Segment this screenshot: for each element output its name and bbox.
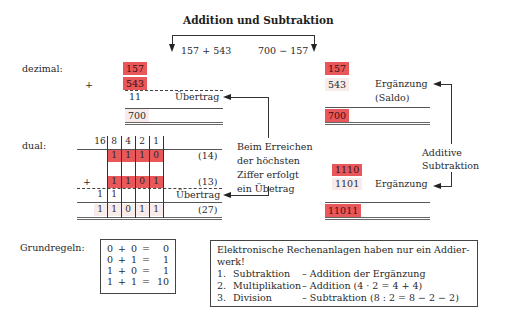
info-item-desc: – Addition der Ergänzung: [302, 268, 425, 280]
info-item-op: Subtraktion: [233, 268, 302, 280]
rule-op: +: [118, 276, 126, 287]
info-item-num: 3.: [217, 292, 233, 304]
info-item-desc: – Subtraktion (8 : 2 = 8 − 2 − 2): [302, 292, 459, 304]
binary-label: dual:: [22, 140, 46, 151]
rule-eq: =: [142, 276, 150, 287]
rule-eq: =: [142, 254, 150, 265]
rule-row: 0+0=0: [107, 243, 169, 254]
row2-digit: 0: [135, 176, 149, 186]
result-digit: 1: [93, 204, 107, 214]
carry-note-line: Ziffer erfolgt: [237, 168, 313, 182]
carry-note-line: der höchsten: [237, 154, 313, 168]
rule-a: 1: [107, 265, 113, 276]
top-bracket-line: [172, 35, 315, 36]
rule-result: 1: [155, 265, 169, 276]
rule-b: 0: [131, 265, 137, 276]
decimal-operand-1: 157: [123, 62, 147, 75]
row1-digit: 1: [135, 150, 149, 160]
bin-sub-operand-1: 1110: [332, 164, 362, 176]
rule-result: 10: [155, 276, 169, 287]
additive-subtraction-note: Additive Subtraktion: [422, 146, 479, 172]
info-item: 3. Division – Subtraktion (8 : 2 = 8 − 2…: [217, 292, 471, 304]
row2-digit: 1: [107, 176, 121, 186]
row2-decimal: (13): [198, 176, 218, 187]
row2-digit: 1: [149, 176, 163, 186]
carry-digit: 1: [107, 189, 121, 199]
note-line: Subtraktion: [422, 159, 479, 172]
place-value-4: 4: [121, 136, 135, 146]
place-value-2: 2: [135, 136, 149, 146]
additive-connector-h: [440, 186, 452, 187]
rule-op: +: [118, 265, 126, 276]
column-divider: [149, 136, 150, 218]
bin-complement-label: Ergänzung: [375, 178, 428, 189]
decimal-carry-label: Übertrag: [175, 91, 219, 102]
bin-sub-double-line: [325, 217, 430, 220]
row1-digit: 1: [107, 150, 121, 160]
place-value-8: 8: [107, 136, 121, 146]
decimal-result: 700: [125, 109, 149, 122]
rule-a: 0: [107, 254, 113, 265]
carry-note: Beim Erreichen der höchsten Ziffer erfol…: [237, 140, 313, 196]
sub-line: [325, 107, 430, 108]
note-line: Additive: [422, 146, 479, 159]
rule-row: 0+1=1: [107, 254, 169, 265]
column-divider: [135, 136, 136, 218]
rule-eq: =: [142, 243, 150, 254]
info-item-op: Division: [233, 292, 302, 304]
sub-double-line: [325, 122, 430, 125]
info-item-num: 1.: [217, 268, 233, 280]
addition-equation: 157 + 543: [181, 45, 231, 56]
additive-connector-v: [451, 172, 452, 186]
rule-b: 0: [131, 243, 137, 254]
carry-connector-v: [268, 97, 269, 138]
plus-sign: +: [85, 79, 93, 90]
decimal-operand-2: 543: [123, 77, 147, 90]
rule-row: 1+1=10: [107, 276, 169, 287]
row1-decimal: (14): [198, 150, 218, 161]
place-value-1: 1: [149, 136, 163, 146]
sub-operand-2: 543: [325, 78, 349, 91]
arrow-down-icon: [169, 44, 175, 52]
result-digit: 1: [135, 204, 149, 214]
rule-b: 1: [131, 254, 137, 265]
rule-eq: =: [142, 265, 150, 276]
complement-label: Ergänzung: [375, 78, 428, 89]
column-divider: [121, 136, 122, 218]
binary-carry-label: Übertrag: [176, 189, 220, 200]
info-item-op: Multiplikation: [233, 280, 302, 292]
row1-digit: 1: [121, 150, 135, 160]
column-divider: [107, 136, 108, 218]
bin-sub-line: [325, 202, 430, 203]
rule-a: 1: [107, 276, 113, 287]
sub-operand-1: 157: [325, 62, 349, 75]
rule-a: 0: [107, 243, 113, 254]
result-decimal: (27): [198, 204, 218, 215]
rules-box: 0+0=0 0+1=1 1+0=1 1+1=10: [100, 239, 176, 294]
double-line: [125, 122, 223, 125]
rule-row: 1+0=1: [107, 265, 169, 276]
bin-sub-operand-2: 1101: [332, 178, 362, 190]
decimal-label: dezimal:: [22, 63, 63, 74]
info-heading-line2: werk!: [217, 256, 471, 268]
arrow-down-icon: [311, 44, 317, 52]
info-item: 2. Multiplikation – Addition (4 · 2 = 4 …: [217, 280, 471, 292]
rule-op: +: [118, 254, 126, 265]
info-item-desc: – Addition (4 · 2 = 4 + 4): [302, 280, 422, 292]
column-divider: [163, 136, 164, 218]
bin-sub-result: 11011: [325, 204, 361, 217]
sub-result: 700: [325, 109, 349, 122]
row2-digit: 1: [121, 176, 135, 186]
result-digit: 0: [121, 204, 135, 214]
row1-digit: 0: [149, 150, 163, 160]
result-digit: 1: [107, 204, 121, 214]
info-box: Elektronische Rechenanlagen haben nur ei…: [210, 240, 478, 307]
complement-sub-label: (Saldo): [375, 92, 409, 103]
carry-connector-h: [230, 97, 269, 98]
decimal-carry: 11: [129, 91, 141, 102]
arrow-left-icon: [433, 183, 441, 189]
rule-op: +: [118, 243, 126, 254]
carry-note-line: Beim Erreichen: [237, 140, 313, 154]
complement-connector-v: [451, 84, 452, 144]
carry-digit: 1: [93, 189, 107, 199]
